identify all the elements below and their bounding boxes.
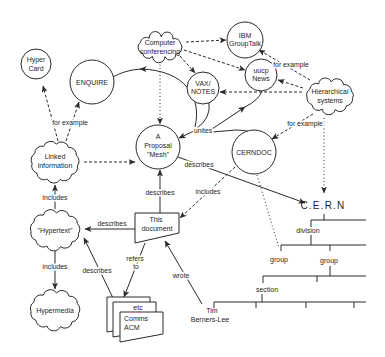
- mesh-label-2: Proposal: [144, 142, 172, 150]
- label-hierarchical-for-example-top: for example: [273, 61, 309, 69]
- linked-information-label-1: Linked: [45, 153, 66, 160]
- label-hierarchical-for-example-bottom: for example: [287, 120, 323, 128]
- edge-vax-to-unites: [197, 103, 209, 128]
- edge-cerndoc-to-group: [257, 175, 279, 248]
- node-vax-notes: VAX/ NOTES: [187, 72, 219, 104]
- node-this-document: This document: [135, 213, 179, 243]
- tree-level-3: [263, 266, 366, 283]
- node-ibm-grouptalk: IBM GroupTalk: [227, 22, 263, 58]
- hierarchical-systems-label-1: Hierarchical: [312, 88, 349, 95]
- hypercard-label-2: Card: [28, 65, 43, 72]
- cern-hierarchy-tree: C.E.R.N division group group section: [214, 200, 366, 308]
- edge-document-to-stack: [124, 243, 145, 297]
- group-left-label: group: [270, 256, 288, 264]
- label-mesh-describes-cern: describes: [184, 161, 214, 168]
- label-cerndoc-includes-document: includes: [196, 188, 222, 195]
- label-linked-for-example: for example: [52, 119, 88, 127]
- ibm-grouptalk-label-2: GroupTalk: [229, 40, 261, 48]
- label-stack-describes-hypertext: describes: [82, 267, 112, 274]
- label-document-describes-hypertext: describes: [97, 220, 127, 227]
- node-hypercard: Hyper Card: [21, 49, 51, 79]
- cern-root-label: C.E.R.N: [300, 200, 345, 211]
- node-enquire: ENQUIRE: [70, 60, 114, 104]
- tree-level-1: [311, 214, 366, 227]
- edge-hierarchical-to-uucp: [278, 80, 303, 88]
- node-mesh-proposal: A Proposal "Mesh": [136, 125, 180, 169]
- uucp-news-label-2: News: [252, 75, 270, 82]
- label-refers: refers: [126, 255, 144, 262]
- hypertext-label: "Hypertext": [38, 227, 73, 235]
- edge-uucp-tail: [245, 91, 262, 107]
- person-label-1: Tim: [206, 307, 218, 314]
- node-uucp-news: uucp News: [245, 59, 277, 91]
- group-right-label: group: [320, 257, 338, 265]
- computer-conferencing-label-1: Computer: [145, 39, 176, 47]
- stack-label-etc: etc: [133, 304, 143, 311]
- vax-notes-label-2: NOTES: [191, 88, 215, 95]
- node-hypertext: "Hypertext": [30, 210, 79, 251]
- edge-linked-to-hypercard: [43, 86, 58, 141]
- label-hypertext-includes-linked: includes: [43, 194, 69, 201]
- section-label: section: [256, 286, 278, 293]
- enquire-label: ENQUIRE: [76, 79, 108, 87]
- this-document-label-1: This: [149, 216, 163, 223]
- tree-level-4: [214, 294, 366, 308]
- mesh-label-3: "Mesh": [147, 151, 170, 158]
- edge-conferencing-to-ibm: [186, 40, 226, 42]
- hierarchical-systems-label-2: systems: [317, 97, 343, 105]
- computer-conferencing-label-2: conferencing: [140, 48, 180, 56]
- person-label-2: Berners-Lee: [191, 316, 230, 323]
- label-document-describes-mesh: describes: [145, 189, 175, 196]
- edge-unites-to-uucp: [212, 107, 245, 129]
- tree-level-2: [281, 235, 366, 251]
- label-wrote: wrote: [172, 272, 190, 279]
- node-hypermedia: Hypermedia: [30, 290, 79, 331]
- mesh-label-1: A: [156, 133, 161, 140]
- edge-conferencing-to-vax: [180, 56, 195, 73]
- division-label: division: [296, 227, 319, 234]
- label-unites: unites: [194, 127, 213, 134]
- stack-label-acm: ACM: [124, 324, 140, 331]
- hypercard-circle: [21, 49, 51, 79]
- label-refers-to: to: [133, 263, 139, 270]
- node-linked-information: Linked information: [31, 141, 79, 183]
- node-computer-conferencing: Computer conferencing: [138, 32, 182, 63]
- node-document-stack: etc Comms ACM: [107, 297, 163, 342]
- cerndoc-label: CERNDOC: [236, 149, 271, 156]
- hypercard-label-1: Hyper: [27, 56, 46, 64]
- label-hypertext-includes-hypermedia: includes: [43, 263, 69, 270]
- node-cerndoc: CERNDOC: [232, 130, 276, 174]
- stack-label-comms: Comms: [124, 315, 149, 322]
- node-person: Tim Berners-Lee: [191, 307, 230, 323]
- this-document-label-2: document: [142, 225, 173, 232]
- edge-unites-to-enquire: [140, 69, 197, 127]
- vax-notes-label-1: VAX/: [195, 80, 210, 87]
- uucp-news-label-1: uucp: [253, 67, 268, 75]
- hypermedia-label: Hypermedia: [36, 307, 74, 315]
- node-hierarchical-systems: Hierarchical systems: [307, 78, 354, 115]
- ibm-grouptalk-label-1: IBM: [239, 32, 252, 39]
- linked-information-label-2: information: [38, 162, 73, 169]
- edge-enquire-arc-tail: [113, 69, 141, 77]
- mesh-proposal-diagram: C.E.R.N division group group section Hyp…: [0, 0, 385, 357]
